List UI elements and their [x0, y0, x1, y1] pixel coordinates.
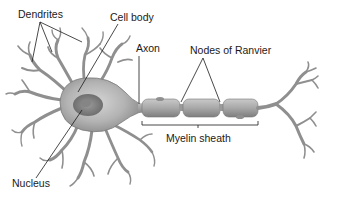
label-dendrites: Dendrites	[18, 9, 63, 20]
neuron-illustration	[0, 0, 337, 207]
label-axon: Axon	[136, 43, 160, 54]
label-nodes-of-ranvier: Nodes of Ranvier	[190, 45, 271, 56]
label-myelin-sheath: Myelin sheath	[166, 133, 231, 144]
label-nucleus: Nucleus	[12, 178, 50, 189]
myelin-segments	[142, 97, 258, 119]
neuron-diagram: Dendrites Cell body Axon Nodes of Ranvie…	[0, 0, 337, 207]
label-cell-body: Cell body	[110, 12, 154, 23]
axon-terminal	[258, 62, 318, 158]
